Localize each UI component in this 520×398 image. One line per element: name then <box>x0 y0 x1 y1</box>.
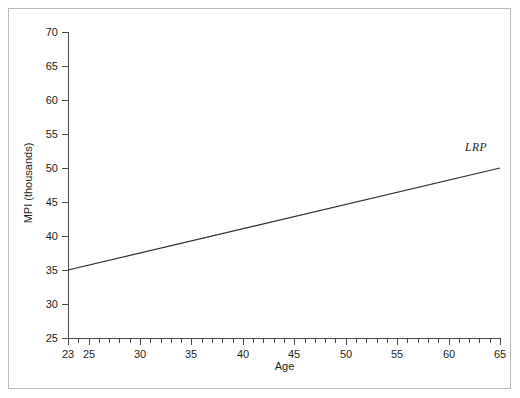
chart-figure: 25303540455055606570 2325303540455055606… <box>0 0 520 398</box>
x-tick-52 <box>366 339 367 343</box>
x-axis-title: Age <box>68 360 501 372</box>
x-tick-label-55: 55 <box>383 348 411 360</box>
x-tick-46 <box>305 339 306 343</box>
x-tick-23 <box>68 339 69 345</box>
x-tick-33 <box>171 339 172 343</box>
x-tick-58 <box>428 339 429 343</box>
x-tick-53 <box>377 339 378 343</box>
y-tick-label-35: 35 <box>30 265 58 276</box>
y-tick-35 <box>62 270 68 271</box>
series-annotation-lrp: LRP <box>465 141 487 153</box>
y-axis-line <box>68 32 69 339</box>
y-tick-60 <box>62 100 68 101</box>
x-tick-29 <box>130 339 131 343</box>
x-tick-41 <box>253 339 254 343</box>
y-tick-70 <box>62 32 68 33</box>
x-tick-label-60: 60 <box>435 348 463 360</box>
x-tick-49 <box>335 339 336 343</box>
x-tick-57 <box>418 339 419 343</box>
x-tick-48 <box>325 339 326 343</box>
y-tick-40 <box>62 236 68 237</box>
x-tick-61 <box>459 339 460 343</box>
y-tick-label-55: 55 <box>30 129 58 140</box>
x-tick-24 <box>78 339 79 343</box>
y-tick-label-50: 50 <box>30 163 58 174</box>
x-tick-label-30: 30 <box>126 348 154 360</box>
x-tick-59 <box>438 339 439 343</box>
x-tick-30 <box>140 339 141 345</box>
x-tick-44 <box>284 339 285 343</box>
x-tick-47 <box>315 339 316 343</box>
x-tick-31 <box>150 339 151 343</box>
x-tick-34 <box>181 339 182 343</box>
y-tick-label-70: 70 <box>30 27 58 38</box>
x-tick-43 <box>274 339 275 343</box>
y-tick-label-60: 60 <box>30 95 58 106</box>
y-tick-50 <box>62 168 68 169</box>
x-tick-54 <box>387 339 388 343</box>
x-tick-label-25: 25 <box>75 348 103 360</box>
x-tick-28 <box>119 339 120 343</box>
x-tick-63 <box>479 339 480 343</box>
x-tick-label-40: 40 <box>229 348 257 360</box>
figure-border <box>8 8 511 389</box>
x-tick-65 <box>500 339 501 345</box>
y-axis-title: MPI (thousands) <box>22 103 34 263</box>
x-tick-42 <box>263 339 264 343</box>
x-tick-32 <box>161 339 162 343</box>
x-tick-25 <box>89 339 90 345</box>
x-tick-label-65: 65 <box>486 348 514 360</box>
x-tick-27 <box>109 339 110 343</box>
x-tick-label-35: 35 <box>177 348 205 360</box>
x-tick-55 <box>397 339 398 345</box>
x-tick-26 <box>99 339 100 343</box>
y-tick-label-65: 65 <box>30 61 58 72</box>
y-tick-label-40: 40 <box>30 231 58 242</box>
x-tick-60 <box>449 339 450 345</box>
x-tick-40 <box>243 339 244 345</box>
x-tick-50 <box>346 339 347 345</box>
x-tick-62 <box>469 339 470 343</box>
y-tick-45 <box>62 202 68 203</box>
y-tick-65 <box>62 66 68 67</box>
x-tick-56 <box>407 339 408 343</box>
y-tick-30 <box>62 304 68 305</box>
x-tick-label-45: 45 <box>280 348 308 360</box>
x-tick-39 <box>233 339 234 343</box>
y-tick-label-45: 45 <box>30 197 58 208</box>
x-tick-35 <box>191 339 192 345</box>
y-tick-label-25: 25 <box>30 333 58 344</box>
x-tick-36 <box>202 339 203 343</box>
x-tick-45 <box>294 339 295 345</box>
y-tick-55 <box>62 134 68 135</box>
y-tick-label-30: 30 <box>30 299 58 310</box>
x-tick-label-50: 50 <box>332 348 360 360</box>
x-tick-64 <box>490 339 491 343</box>
x-tick-37 <box>212 339 213 343</box>
x-tick-51 <box>356 339 357 343</box>
x-tick-38 <box>222 339 223 343</box>
